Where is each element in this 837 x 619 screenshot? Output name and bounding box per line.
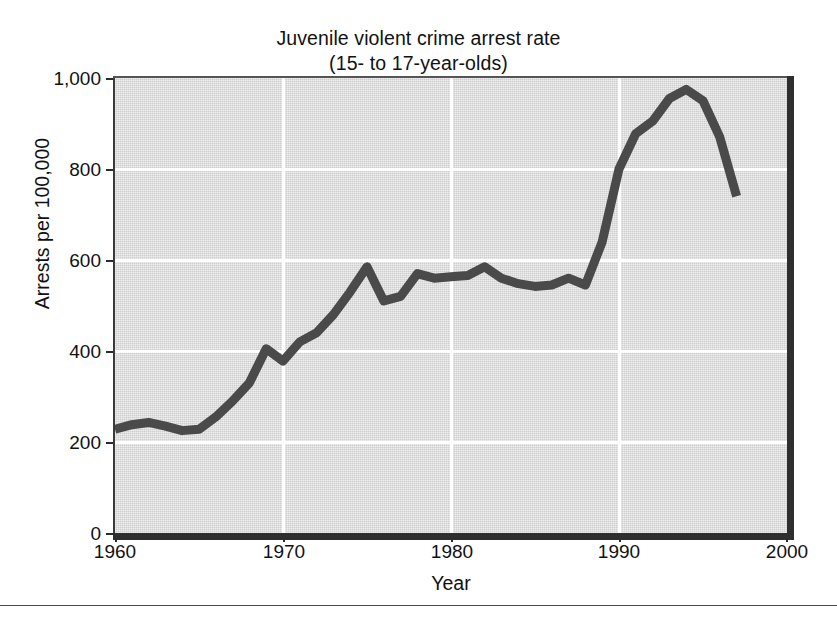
series-path-juvenile-arrest-rate	[115, 89, 737, 430]
footer-divider	[0, 605, 837, 606]
data-series-line	[115, 78, 787, 533]
x-tick-label-2000: 2000	[741, 541, 833, 563]
x-axis-label: Year	[115, 572, 787, 595]
chart-figure: Juvenile violent crime arrest rate (15- …	[0, 0, 837, 619]
chart-title-block: Juvenile violent crime arrest rate (15- …	[0, 26, 837, 76]
plot-border-top	[113, 76, 789, 78]
plot-border-bottom	[113, 533, 794, 540]
y-tick-label-200: 200	[0, 432, 101, 454]
y-axis-label: Arrests per 100,000	[31, 14, 54, 434]
chart-subtitle: (15- to 17-year-olds)	[0, 51, 837, 76]
plot-border-right	[787, 76, 794, 538]
page-title: Juvenile violent crime arrest rate	[0, 26, 837, 51]
x-tick-label-1960: 1960	[69, 541, 161, 563]
x-tick-label-1990: 1990	[573, 541, 665, 563]
plot-area	[115, 78, 787, 533]
x-tick-label-1970: 1970	[238, 541, 330, 563]
x-tick-label-1980: 1980	[406, 541, 498, 563]
plot-border-left	[113, 76, 115, 535]
